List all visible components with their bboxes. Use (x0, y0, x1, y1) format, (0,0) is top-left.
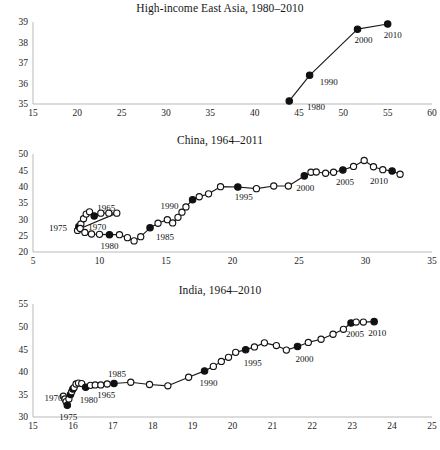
point-year-label: 1990 (320, 77, 339, 87)
data-point-marker-open (360, 319, 366, 325)
data-point-marker-open (251, 344, 257, 350)
y-axis-tick-label: 25 (19, 231, 29, 241)
x-axis-tick-label: 22 (308, 421, 318, 431)
x-axis-tick-label: 20 (73, 108, 83, 118)
data-point-marker-open (361, 157, 367, 163)
y-axis-tick-label: 50 (19, 322, 29, 332)
data-point-marker-filled (294, 343, 300, 349)
data-point-marker-open (305, 339, 311, 345)
x-axis-tick-label: 30 (361, 256, 371, 266)
x-axis-tick-label: 15 (161, 256, 171, 266)
data-point-marker-filled (235, 184, 241, 190)
plot-area-china: 2025303540455051015202530351965197019751… (0, 132, 440, 282)
data-point-marker-filled (340, 167, 346, 173)
plot-area-india: 3035404550551516171819202122232425196519… (0, 282, 440, 450)
point-year-label: 2000 (296, 354, 315, 364)
x-axis-tick-label: 40 (250, 108, 260, 118)
point-year-label: 1985 (108, 369, 127, 379)
chart-panel-china: China, 1964–2011 20253035404550510152025… (0, 132, 440, 282)
y-axis-tick-label: 55 (19, 299, 29, 309)
x-axis-tick-label: 21 (268, 421, 278, 431)
point-year-label: 1980 (80, 395, 99, 405)
data-point-marker-filled (242, 346, 248, 352)
point-year-label: 1990 (200, 378, 219, 388)
y-axis-tick-label: 35 (19, 198, 29, 208)
data-point-marker-filled (106, 231, 112, 237)
data-point-marker-open (353, 319, 359, 325)
x-axis-tick-label: 18 (148, 421, 158, 431)
data-point-marker-open (330, 331, 336, 337)
x-axis-tick-label: 15 (28, 108, 38, 118)
x-axis-tick-label: 20 (228, 421, 238, 431)
data-point-marker-open (313, 169, 319, 175)
point-year-label: 1995 (244, 358, 262, 368)
data-point-marker-open (271, 183, 277, 189)
data-point-marker-filled (301, 173, 307, 179)
point-year-label: 1975 (59, 412, 77, 422)
data-point-marker-filled (111, 380, 117, 386)
data-point-marker-open (155, 220, 161, 226)
data-point-marker-open (380, 167, 386, 173)
point-year-label: 1965 (97, 390, 116, 400)
x-axis-tick-label: 45 (294, 108, 304, 118)
x-axis-tick-label: 55 (383, 108, 393, 118)
y-axis-tick-label: 35 (19, 99, 29, 109)
chart-panel-india: India, 1964–2010 30354045505515161718192… (0, 282, 440, 450)
data-point-marker-filled (201, 368, 207, 374)
x-axis-tick-label: 25 (294, 256, 304, 266)
x-axis-tick-label: 35 (427, 256, 437, 266)
x-axis-tick-label: 25 (427, 421, 437, 431)
point-year-label: 2010 (384, 30, 403, 40)
data-point-marker-filled (389, 168, 395, 174)
data-point-marker-open (183, 204, 189, 210)
data-point-marker-open (196, 194, 202, 200)
x-axis-tick-label: 25 (117, 108, 127, 118)
y-axis-tick-label: 45 (19, 166, 29, 176)
data-point-marker-open (233, 349, 239, 355)
data-point-marker-open (283, 347, 289, 353)
data-point-marker-open (124, 235, 130, 241)
data-point-marker-open (104, 381, 110, 387)
point-year-label: 2000 (296, 183, 315, 193)
point-year-label: 1970 (45, 393, 64, 403)
point-year-label: 2005 (346, 329, 365, 339)
y-axis-tick-label: 35 (19, 390, 29, 400)
data-point-marker-filled (286, 98, 292, 104)
x-axis-tick-label: 50 (339, 108, 349, 118)
data-point-marker-open (217, 184, 223, 190)
point-year-label: 1985 (156, 232, 175, 242)
data-point-marker-open (82, 229, 88, 235)
data-point-marker-open (330, 169, 336, 175)
point-year-label: 1980 (100, 241, 119, 251)
data-point-marker-open (285, 183, 291, 189)
x-axis-tick-label: 60 (427, 108, 437, 118)
point-year-label: 2010 (368, 328, 387, 338)
data-point-marker-open (96, 231, 102, 237)
data-point-marker-open (261, 340, 267, 346)
data-point-marker-filled (91, 213, 97, 219)
data-point-marker-filled (306, 72, 312, 78)
data-point-marker-open (165, 383, 171, 389)
data-point-marker-filled (354, 26, 360, 32)
x-axis-tick-label: 30 (161, 108, 171, 118)
point-year-label: 2010 (370, 176, 389, 186)
point-year-label: 1975 (49, 223, 68, 233)
data-line (289, 24, 387, 101)
x-axis-tick-label: 24 (387, 421, 397, 431)
point-year-label: 1990 (161, 201, 180, 211)
y-axis-tick-label: 30 (19, 412, 29, 422)
y-axis-tick-label: 20 (19, 247, 29, 257)
data-point-marker-open (253, 186, 259, 192)
data-point-marker-open (205, 191, 211, 197)
y-axis-tick-label: 39 (19, 17, 29, 27)
y-axis-tick-label: 38 (19, 38, 29, 48)
data-point-marker-open (273, 342, 279, 348)
point-year-label: 2000 (355, 35, 374, 45)
data-point-marker-open (323, 170, 329, 176)
data-point-marker-open (170, 220, 176, 226)
point-year-label: 1995 (235, 192, 254, 202)
plot-area-high-income-east-asia: 3536373839152025303540455055601980199020… (0, 0, 440, 132)
data-point-marker-filled (64, 402, 70, 408)
data-point-marker-open (397, 171, 403, 177)
data-point-marker-open (146, 381, 152, 387)
